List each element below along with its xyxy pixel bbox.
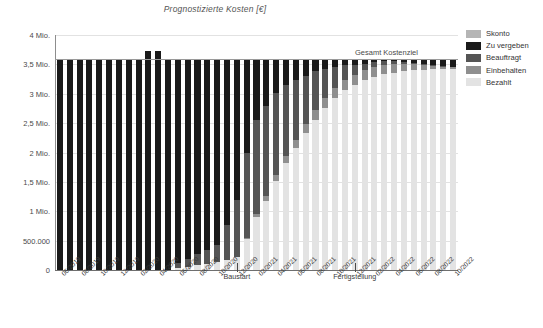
milestone-tick [237, 263, 238, 272]
bar-segment-zu-vergeben [194, 59, 200, 254]
bar-segment-beauftragt [283, 85, 289, 156]
bar-segment-zu-vergeben [96, 59, 102, 271]
bar-segment-bezahlt [332, 98, 338, 270]
bar-segment-zu-vergeben [342, 59, 348, 66]
y-axis-tick-label: 4 Mio. [30, 31, 50, 40]
bar-segment-beauftragt [303, 76, 309, 125]
bar-column [116, 59, 122, 271]
bar-segment-zu-vergeben [214, 59, 220, 245]
bar-column [371, 59, 377, 270]
legend-item[interactable]: Einbehalten [466, 66, 529, 75]
bar-column [77, 59, 83, 271]
legend-label: Zu vergeben [486, 41, 529, 50]
bar-segment-zu-vergeben [116, 59, 122, 271]
bar-segment-zu-vergeben [263, 59, 269, 107]
y-axis-tick-label: 500.000 [23, 236, 50, 245]
bar-column [185, 59, 191, 270]
bar-column [96, 59, 102, 271]
bar-column [263, 59, 269, 270]
reference-line-label: Gesamt Kostenziel [355, 48, 418, 57]
legend-item[interactable]: Zu vergeben [466, 41, 529, 50]
bar-column [145, 51, 151, 270]
bar-segment-einbehalten [312, 110, 318, 119]
bar-segment-bezahlt [411, 70, 417, 270]
bar-column [421, 59, 427, 270]
bar-segment-beauftragt [352, 65, 358, 75]
y-axis-tick-label: 1,5 Mio. [23, 177, 50, 186]
bar-column [67, 59, 73, 271]
legend-swatch [466, 42, 481, 50]
bar-segment-bezahlt [391, 73, 397, 270]
bar-column [224, 59, 230, 270]
bar-segment-zu-vergeben [244, 59, 250, 153]
bar-column [391, 59, 397, 270]
bar-segment-zu-vergeben [303, 59, 309, 76]
bar-column [342, 59, 348, 270]
bar-column [362, 59, 368, 270]
bar-segment-einbehalten [283, 156, 289, 163]
chart-title: Prognostizierte Kosten [€] [0, 4, 430, 14]
bar-segment-zu-vergeben [322, 59, 328, 69]
bar-column [283, 59, 289, 270]
bar-segment-beauftragt [293, 80, 299, 139]
legend-swatch [466, 30, 481, 38]
bar-column [165, 59, 171, 271]
bar-segment-zu-vergeben [136, 59, 142, 271]
bar-segment-beauftragt [322, 69, 328, 98]
y-axis-tick-label: 2 Mio. [30, 148, 50, 157]
bar-segment-zu-vergeben [126, 59, 132, 271]
bar-segment-einbehalten [391, 64, 397, 73]
bar-segment-zu-vergeben [185, 59, 191, 259]
bar-column [175, 59, 181, 270]
x-axis-labels: 06/201908/201910/201912/201902/202004/20… [55, 272, 458, 328]
bar-column [430, 59, 436, 270]
bar-segment-zu-vergeben [145, 51, 151, 270]
bar-segment-bezahlt [293, 148, 299, 270]
bar-column [136, 59, 142, 271]
bar-segment-bezahlt [371, 77, 377, 270]
bar-segment-beauftragt [253, 120, 259, 214]
milestone-label: Fertigstellung [333, 272, 376, 281]
bar-segment-einbehalten [332, 88, 338, 98]
legend-item[interactable]: Bezahlt [466, 78, 529, 87]
bar-column [253, 59, 259, 270]
bar-column [194, 59, 200, 270]
y-axis-tick-label: 1 Mio. [30, 207, 50, 216]
bar-segment-bezahlt [401, 71, 407, 270]
bar-segment-beauftragt [263, 106, 269, 196]
bar-segment-zu-vergeben [175, 59, 181, 263]
legend-swatch [466, 66, 481, 74]
bar-column [411, 59, 417, 270]
bar-segment-bezahlt [421, 70, 427, 270]
bar-segment-zu-vergeben [273, 59, 279, 94]
forecast-cost-chart: Prognostizierte Kosten [€] 4 Mio.3,5 Mio… [0, 0, 543, 328]
chart-legend: SkontoZu vergebenBeauftragtEinbehaltenBe… [466, 29, 529, 90]
legend-label: Skonto [486, 29, 510, 38]
bar-segment-zu-vergeben [450, 59, 456, 67]
bar-segment-beauftragt [273, 93, 279, 174]
y-axis-tick-label: 3 Mio. [30, 89, 50, 98]
legend-item[interactable]: Beauftragt [466, 53, 529, 62]
plot-area: Gesamt Kostenziel [55, 35, 458, 270]
y-axis-tick-label: 0 [46, 266, 50, 275]
bar-segment-zu-vergeben [155, 51, 161, 270]
legend-label: Bezahlt [486, 78, 511, 87]
bar-segment-bezahlt [283, 163, 289, 270]
bar-column [293, 59, 299, 270]
bar-segment-einbehalten [362, 70, 368, 80]
bar-segment-beauftragt [244, 153, 250, 238]
bar-segment-beauftragt [342, 65, 348, 80]
legend-label: Beauftragt [486, 53, 521, 62]
bar-column [214, 59, 220, 270]
bar-segment-bezahlt [440, 69, 446, 270]
bar-column [244, 59, 250, 270]
bar-column [106, 59, 112, 271]
legend-item[interactable]: Skonto [466, 29, 529, 38]
bar-segment-einbehalten [381, 65, 387, 75]
bar-column [273, 59, 279, 270]
legend-swatch [466, 54, 481, 62]
bar-segment-bezahlt [312, 120, 318, 270]
y-axis-tick-label: 2,5 Mio. [23, 119, 50, 128]
milestone-label: Baustart [223, 272, 250, 281]
bar-segment-zu-vergeben [234, 59, 240, 200]
